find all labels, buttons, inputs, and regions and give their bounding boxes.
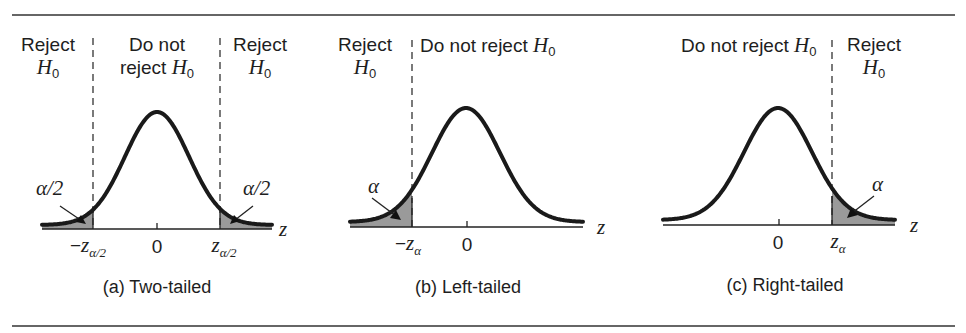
h-sub: 0 [52,66,59,81]
h-sub: 0 [187,66,194,81]
panel-b-critical-value: −zα [395,232,421,262]
h0-symbol: H0 [21,56,75,85]
h-sub: 0 [809,44,816,59]
do-not-text: Do not [120,34,194,56]
do-not-reject-text: Do not reject [681,35,794,56]
z-sub: α [414,243,421,258]
panel-a-axis-label: z [279,218,287,240]
panel-a-do-not-reject-label: Do not reject H0 [120,34,194,85]
do-not-reject-text: Do not reject [420,35,533,56]
panel-c-reject-label: Reject H0 [847,34,901,85]
h-var: H [37,55,52,79]
panel-a-caption: (a) Two-tailed [103,276,212,298]
z-sub: α/2 [220,245,237,260]
z-sub: α/2 [89,245,106,260]
panel-a-left-reject-label: Reject H0 [21,34,75,85]
z-sub: α [839,241,846,256]
panel-b-axis-label: z [597,216,605,238]
reject-prefix: reject [120,57,172,78]
panel-a-right-area-label: α/2 [243,177,270,199]
panel-c-area-label: α [872,173,883,195]
panel-b-do-not-reject-label: Do not reject H0 [420,34,555,63]
reject-text: Reject [847,34,901,56]
panel-b-normal-curve [350,108,583,222]
panel-b-caption: (b) Left-tailed [415,276,521,298]
panel-a-left-critical-value: −zα/2 [70,234,106,264]
minus-sign: − [395,233,406,254]
panel-a-normal-curve [42,112,272,225]
h0-symbol: H0 [233,56,287,85]
panel-a-left-area-label: α/2 [36,177,63,199]
panel-c-zero-tick-label: 0 [773,232,784,254]
panel-c-normal-curve [663,108,895,220]
reject-h0-text: reject H0 [120,56,194,85]
h-var: H [354,55,369,79]
h-var: H [863,55,878,79]
h-var: H [794,33,809,57]
panel-c-do-not-reject-label: Do not reject H0 [681,34,816,63]
z-var: z [830,229,838,253]
h-sub: 0 [369,66,376,81]
panel-a-right-critical-value: zα/2 [211,234,236,264]
h0-symbol: H0 [338,56,392,85]
panel-b-area-label: α [368,175,379,197]
panel-c-caption: (c) Right-tailed [726,274,843,296]
panel-a-right-reject-label: Reject H0 [233,34,287,85]
hypothesis-test-rejection-regions-figure: Reject H0 Do not reject H0 Reject H0 α/2… [0,0,966,333]
panel-c-critical-value: zα [830,230,845,260]
h0-symbol: H0 [847,56,901,85]
h-sub: 0 [548,44,555,59]
h-sub: 0 [878,66,885,81]
reject-text: Reject [21,34,75,56]
h-var: H [533,33,548,57]
reject-text: Reject [233,34,287,56]
reject-text: Reject [338,34,392,56]
panel-c-axis-label: z [910,214,918,236]
panel-b-zero-tick-label: 0 [462,234,473,256]
panel-a-zero-tick-label: 0 [152,236,163,258]
h-var: H [172,55,187,79]
h-sub: 0 [264,66,271,81]
z-var: z [211,233,219,257]
minus-sign: − [70,235,81,256]
h-var: H [249,55,264,79]
panel-b-reject-label: Reject H0 [338,34,392,85]
